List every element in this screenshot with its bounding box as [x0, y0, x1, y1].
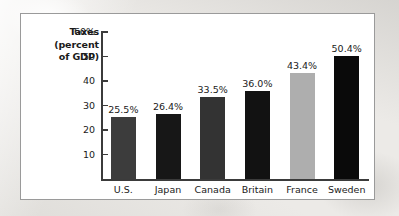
bar-value-label: 36.0% [233, 78, 281, 89]
bar[interactable] [334, 56, 359, 179]
y-axis-tick-label: 60% [49, 26, 95, 37]
bar[interactable] [245, 91, 270, 179]
y-axis-tick-label: 40 [49, 75, 95, 86]
bar[interactable] [200, 97, 225, 179]
bar-value-label: 33.5% [189, 84, 237, 95]
y-axis-tick-label: 50 [49, 51, 95, 62]
y-axis-tick [101, 129, 108, 131]
y-axis-tick [101, 56, 108, 58]
x-axis-category-label: Sweden [321, 184, 373, 195]
x-axis-line [101, 179, 369, 181]
y-axis-tick-label: 30 [49, 100, 95, 111]
y-axis-tick-label: 20 [49, 124, 95, 135]
y-axis-tick [101, 80, 108, 82]
y-axis-title-line: (percent [23, 39, 99, 52]
bar-value-label: 43.4% [278, 60, 326, 71]
bar[interactable] [156, 114, 181, 179]
bar-value-label: 50.4% [323, 43, 371, 54]
bar-value-label: 25.5% [99, 104, 147, 115]
bar[interactable] [111, 117, 136, 179]
y-axis-tick [101, 31, 108, 33]
plot-area: Taxes(percentof GDP) 102030405060% 25.5%… [21, 14, 374, 199]
bar[interactable] [290, 73, 315, 179]
y-axis-tick [101, 154, 108, 156]
bar-value-label: 26.4% [144, 101, 192, 112]
y-axis-tick-label: 10 [49, 149, 95, 160]
chart-panel: Taxes(percentof GDP) 102030405060% 25.5%… [20, 13, 375, 200]
